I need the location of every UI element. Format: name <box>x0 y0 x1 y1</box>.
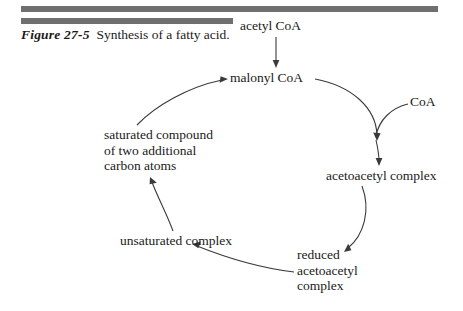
figure-container: Figure 27-5Synthesis of a fatty acid. ac… <box>0 0 463 311</box>
arrow-unsaturated-to-saturated <box>152 182 173 231</box>
arrowhead-acetoacetyl <box>376 158 383 166</box>
node-malonyl-coa: malonyl CoA <box>230 70 303 86</box>
arrowhead-malonyl-cycle <box>220 76 228 83</box>
node-reduced-acetoacetyl-complex: reduced acetoacetyl complex <box>297 247 358 294</box>
arrowhead-saturated <box>150 177 157 184</box>
node-unsaturated-complex: unsaturated complex <box>120 233 232 249</box>
arrow-junction-to-acetoacetyl <box>376 140 379 161</box>
node-coa: CoA <box>410 94 436 110</box>
arrow-saturated-to-malonyl <box>137 80 222 125</box>
arrowhead-malonyl <box>273 60 280 68</box>
node-acetyl-coa: acetyl CoA <box>240 18 301 34</box>
arrow-coa-branch <box>376 104 408 136</box>
arrow-reduced-to-unsaturated <box>197 246 294 272</box>
arrow-acetoacetyl-to-reduced <box>348 186 366 248</box>
node-saturated-compound: saturated compound of two additional car… <box>104 127 213 174</box>
node-acetoacetyl-complex: acetoacetyl complex <box>326 168 437 184</box>
cycle-arrows <box>0 0 463 311</box>
arrow-malonyl-to-acetoacetyl <box>315 79 377 135</box>
